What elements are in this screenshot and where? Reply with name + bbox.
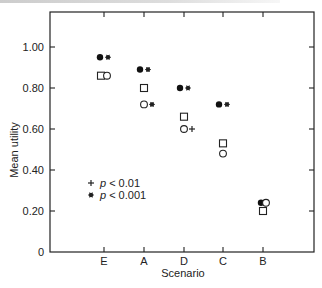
open-circle-marker	[141, 101, 148, 108]
legend-plus-icon	[88, 180, 94, 186]
open-square-marker	[260, 208, 267, 215]
asterisk-icon	[145, 67, 151, 72]
svg-text:p< 0.001: p< 0.001	[99, 189, 146, 201]
filled-circle-marker	[137, 66, 143, 72]
legend-plus-value: < 0.01	[109, 177, 140, 189]
y-tick-label: 0	[38, 246, 44, 258]
plus-icon	[189, 126, 195, 132]
y-tick-label: 0.40	[23, 164, 44, 176]
open-circle-marker	[220, 150, 227, 157]
x-tick-label: D	[180, 255, 188, 267]
asterisk-icon	[149, 102, 155, 107]
open-square-marker	[220, 140, 227, 147]
y-tick-label: 0.20	[23, 205, 44, 217]
open-square-marker	[181, 113, 188, 120]
asterisk-icon	[105, 55, 111, 60]
open-circle-marker	[181, 126, 188, 133]
legend-asterisk-icon	[88, 193, 94, 198]
x-axis-label: Scenario	[161, 267, 204, 279]
svg-text:p< 0.01: p< 0.01	[99, 177, 140, 189]
y-axis-label: Mean utility	[8, 122, 20, 178]
legend: p< 0.01 p< 0.001	[88, 177, 146, 201]
y-tick-label: 0.60	[23, 123, 44, 135]
x-tick-label: E	[100, 255, 107, 267]
x-axis: EADCB	[100, 12, 266, 267]
x-tick-label: C	[219, 255, 227, 267]
filled-circle-marker	[177, 85, 183, 91]
open-circle-marker	[263, 199, 270, 206]
legend-asterisk-value: < 0.001	[109, 189, 146, 201]
x-tick-label: B	[259, 255, 266, 267]
asterisk-icon	[185, 86, 191, 91]
filled-circle-marker	[216, 101, 222, 107]
asterisk-icon	[224, 102, 230, 107]
open-circle-marker	[104, 72, 111, 79]
filled-circle-marker	[97, 54, 103, 60]
scatter-chart: 00.200.400.600.801.00 EADCB Mean utility…	[0, 0, 322, 288]
asterisk-icon	[88, 193, 94, 198]
legend-p-label: p	[99, 189, 106, 201]
open-square-marker	[141, 85, 148, 92]
legend-p-label: p	[99, 177, 106, 189]
y-axis: 00.200.400.600.801.00	[23, 41, 314, 258]
y-tick-label: 1.00	[23, 41, 44, 53]
y-tick-label: 0.80	[23, 82, 44, 94]
x-tick-label: A	[140, 255, 148, 267]
